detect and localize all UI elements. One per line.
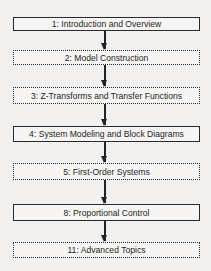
arrow-down-icon	[104, 65, 106, 86]
node-label: 1: Introduction and Overview	[52, 19, 161, 29]
node-1-introduction-and-overview: 1: Introduction and Overview	[13, 17, 200, 31]
node-8-proportional-control: 8: Proportional Control	[13, 204, 200, 221]
node-2-model-construction: 2: Model Construction	[13, 50, 200, 65]
arrow-down-icon	[104, 180, 106, 203]
node-5-first-order-systems: 5: First-Order Systems	[13, 163, 200, 180]
arrow-down-icon	[104, 31, 106, 49]
node-3-z-transforms: 3: Z-Transforms and Transfer Functions	[13, 87, 200, 104]
node-label: 5: First-Order Systems	[63, 167, 149, 177]
arrow-down-icon	[104, 221, 106, 241]
arrow-down-icon	[104, 142, 106, 162]
node-4-system-modeling: 4: System Modeling and Block Diagrams	[13, 126, 200, 142]
node-label: 8: Proportional Control	[64, 208, 150, 218]
node-label: 4: System Modeling and Block Diagrams	[29, 129, 184, 139]
node-label: 3: Z-Transforms and Transfer Functions	[31, 91, 182, 101]
arrow-down-icon	[104, 104, 106, 125]
node-label: 2: Model Construction	[65, 53, 149, 63]
node-label: 11: Advanced Topics	[67, 245, 145, 255]
node-11-advanced-topics: 11: Advanced Topics	[13, 242, 200, 258]
